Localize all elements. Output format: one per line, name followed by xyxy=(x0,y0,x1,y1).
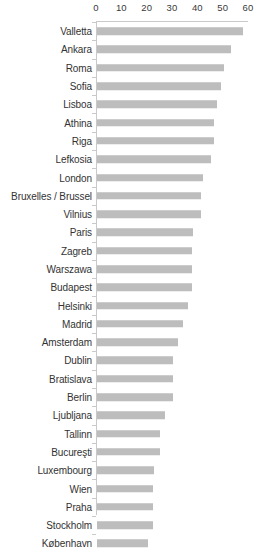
y-axis-tick xyxy=(92,242,96,243)
chart-row: London xyxy=(0,168,256,186)
bar xyxy=(97,375,173,383)
category-label: Zagreb xyxy=(61,245,92,256)
bar xyxy=(97,27,243,35)
chart-row: Tallinn xyxy=(0,425,256,443)
category-label: Bratislava xyxy=(49,373,92,384)
category-label: Budapest xyxy=(51,282,92,293)
bar xyxy=(97,430,160,438)
category-label: Roma xyxy=(66,62,92,73)
y-axis-tick xyxy=(92,132,96,133)
bar xyxy=(97,46,231,54)
chart-row: Helsinki xyxy=(0,296,256,314)
bar xyxy=(97,64,224,72)
bar xyxy=(97,412,165,420)
category-label: Tallinn xyxy=(64,428,92,439)
bar xyxy=(97,137,214,145)
chart-row: Wien xyxy=(0,479,256,497)
x-axis-tick-label: 20 xyxy=(141,2,152,13)
category-label: Dublin xyxy=(64,355,92,366)
category-label: Stockholm xyxy=(46,520,92,531)
y-axis-tick xyxy=(92,479,96,480)
y-axis-tick xyxy=(92,223,96,224)
y-axis-tick xyxy=(92,443,96,444)
chart-row: Bucureşti xyxy=(0,443,256,461)
bar xyxy=(97,503,153,511)
bar xyxy=(97,119,214,127)
chart-row: Vilnius xyxy=(0,205,256,223)
category-label: Madrid xyxy=(62,318,92,329)
bar xyxy=(97,485,153,493)
chart-row: Madrid xyxy=(0,315,256,333)
chart-row: Bruxelles / Brussel xyxy=(0,187,256,205)
y-axis-tick xyxy=(92,168,96,169)
y-axis-tick xyxy=(92,77,96,78)
chart-row: Amsterdam xyxy=(0,333,256,351)
bar xyxy=(97,521,153,529)
y-axis-tick xyxy=(92,260,96,261)
x-axis-tick-label: 10 xyxy=(116,2,127,13)
y-axis-tick xyxy=(92,59,96,60)
chart-row: Warszawa xyxy=(0,260,256,278)
y-axis-tick xyxy=(92,498,96,499)
category-label: Lisboa xyxy=(63,99,92,110)
bar xyxy=(97,284,192,292)
chart-row: Roma xyxy=(0,59,256,77)
y-axis-tick xyxy=(92,150,96,151)
category-label: Amsterdam xyxy=(42,337,92,348)
bar xyxy=(97,101,217,109)
chart-row: Riga xyxy=(0,132,256,150)
y-axis-tick xyxy=(92,22,96,23)
category-label: Riga xyxy=(72,135,92,146)
category-label: Bruxelles / Brussel xyxy=(11,190,92,201)
category-label: Wien xyxy=(70,483,92,494)
bar xyxy=(97,320,183,328)
y-axis-tick xyxy=(92,333,96,334)
chart-row: Athina xyxy=(0,113,256,131)
category-label: Praha xyxy=(66,501,92,512)
y-axis-tick xyxy=(92,516,96,517)
category-label: Sofia xyxy=(70,81,92,92)
chart-rows: VallettaAnkaraRomaSofiaLisboaAthinaRigaL… xyxy=(0,22,256,516)
category-label: Valletta xyxy=(60,26,92,37)
y-axis-tick xyxy=(92,534,96,535)
x-axis-tick-label: 50 xyxy=(217,2,228,13)
bar xyxy=(97,174,203,182)
x-axis-tick-label: 30 xyxy=(167,2,178,13)
chart-row: Paris xyxy=(0,223,256,241)
bar xyxy=(97,540,148,548)
category-label: Vilnius xyxy=(63,209,92,220)
y-axis-tick xyxy=(92,187,96,188)
bar xyxy=(97,265,192,273)
bar xyxy=(97,357,173,365)
y-axis-tick xyxy=(92,351,96,352)
chart-row: Bratislava xyxy=(0,370,256,388)
y-axis-tick xyxy=(92,278,96,279)
bar xyxy=(97,192,201,200)
bar xyxy=(97,467,154,475)
chart-row: Berlin xyxy=(0,388,256,406)
bar xyxy=(97,229,193,237)
category-label: Berlin xyxy=(67,392,92,403)
bar xyxy=(97,448,160,456)
chart-row: Dublin xyxy=(0,351,256,369)
chart-row: Ljubljana xyxy=(0,406,256,424)
bar xyxy=(97,155,211,163)
chart-row: Lisboa xyxy=(0,95,256,113)
category-label: London xyxy=(59,172,92,183)
y-axis-tick xyxy=(92,406,96,407)
category-label: Athina xyxy=(64,117,92,128)
y-axis-tick xyxy=(92,425,96,426)
y-axis-tick xyxy=(92,95,96,96)
bar xyxy=(97,82,221,90)
bar xyxy=(97,302,188,310)
y-axis-tick xyxy=(92,370,96,371)
category-label: Warszawa xyxy=(46,264,92,275)
y-axis-tick xyxy=(92,296,96,297)
x-axis-tick-label: 40 xyxy=(192,2,203,13)
chart-row: Sofia xyxy=(0,77,256,95)
chart-row: Zagreb xyxy=(0,242,256,260)
y-axis-tick xyxy=(92,205,96,206)
bar xyxy=(97,338,178,346)
category-label: København xyxy=(42,538,92,549)
x-axis-tick-label: 60 xyxy=(243,2,254,13)
